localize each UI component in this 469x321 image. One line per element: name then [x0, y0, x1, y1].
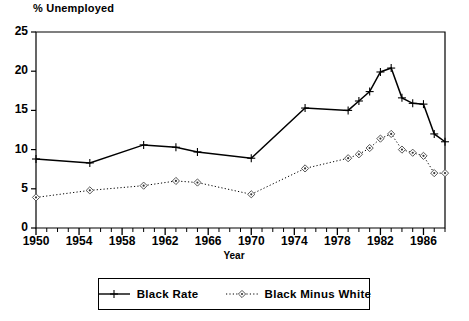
plot-frame [36, 32, 445, 228]
legend-label: Black Rate [137, 288, 199, 300]
x-tick-1962: 1962 [142, 234, 188, 248]
diamond-marker-icon [225, 288, 259, 300]
chart-legend: Black RateBlack Minus White [98, 278, 370, 310]
y-tick-0: 0 [2, 220, 28, 234]
cross-marker-icon [97, 288, 131, 300]
y-tick-25: 25 [2, 24, 28, 38]
chart-title: % Unemployed [33, 2, 114, 14]
x-tick-1974: 1974 [271, 234, 317, 248]
x-tick-1982: 1982 [357, 234, 403, 248]
chart-figure: % Unemployed 0510152025 1950195419581962… [0, 0, 469, 321]
x-tick-1966: 1966 [185, 234, 231, 248]
legend-item-black-minus-white: Black Minus White [225, 288, 372, 300]
y-tick-10: 10 [2, 142, 28, 156]
series-black-minus-white [32, 130, 448, 201]
plot-canvas [0, 0, 469, 321]
x-tick-1950: 1950 [13, 234, 59, 248]
series-black-rate [32, 64, 449, 167]
x-axis-label: Year [204, 250, 264, 261]
legend-item-black-rate: Black Rate [97, 288, 199, 300]
x-tick-1954: 1954 [56, 234, 102, 248]
legend-label: Black Minus White [265, 288, 372, 300]
y-tick-5: 5 [2, 181, 28, 195]
y-tick-15: 15 [2, 102, 28, 116]
y-tick-20: 20 [2, 63, 28, 77]
x-tick-1958: 1958 [99, 234, 145, 248]
x-tick-1986: 1986 [400, 234, 446, 248]
x-tick-1970: 1970 [228, 234, 274, 248]
x-tick-1978: 1978 [314, 234, 360, 248]
